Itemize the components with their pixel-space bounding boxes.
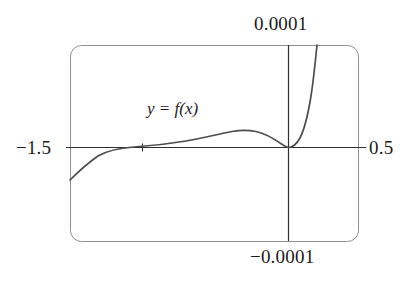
axis-label-left: −1.5 — [16, 138, 51, 157]
curve-annotation-label: y = f(x) — [147, 100, 198, 117]
axis-label-right: 0.5 — [369, 138, 393, 157]
graph-canvas — [0, 0, 407, 281]
graph-figure: 0.0001 −0.0001 −1.5 0.5 y = f(x) — [0, 0, 407, 281]
graph-frame — [71, 46, 359, 242]
axis-label-top: 0.0001 — [254, 14, 307, 33]
axis-label-bottom: −0.0001 — [250, 247, 314, 266]
